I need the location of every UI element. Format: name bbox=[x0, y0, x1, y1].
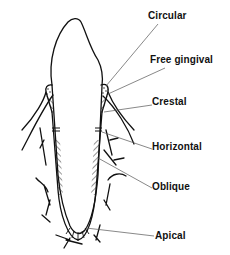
label-circular: Circular bbox=[148, 11, 187, 21]
gingiva-left bbox=[22, 85, 53, 150]
leader-apical bbox=[86, 228, 154, 236]
leader-oblique bbox=[98, 158, 152, 188]
label-apical: Apical bbox=[155, 231, 186, 241]
label-horizontal: Horizontal bbox=[152, 142, 202, 152]
label-crestal: Crestal bbox=[152, 97, 187, 107]
tooth-diagram: Circular Free gingival Crestal Horizonta… bbox=[0, 0, 230, 255]
label-oblique: Oblique bbox=[152, 182, 190, 192]
label-free-gingival: Free gingival bbox=[150, 55, 213, 65]
gingiva-right bbox=[101, 84, 134, 144]
leader-crestal bbox=[104, 105, 152, 112]
tooth-illustration bbox=[0, 0, 230, 255]
leader-free-gingival bbox=[108, 68, 165, 94]
